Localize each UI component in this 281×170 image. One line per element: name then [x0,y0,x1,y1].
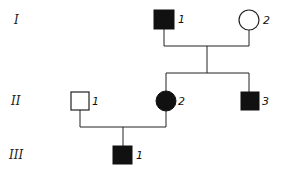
sibship-line-gen2 [166,73,249,92]
generation-label-2: II [10,94,21,108]
marriage-line-gen1 [164,29,249,46]
marriage-line-gen2 [80,110,166,127]
individual-I-2-label: 2 [263,14,270,27]
individual-II-2-affected-female [156,91,176,111]
individual-I-1-label: 1 [178,13,185,26]
generation-label-3: III [8,148,23,162]
individual-II-2-label: 2 [178,95,185,108]
individual-II-1-label: 1 [92,95,99,108]
individual-III-1-label: 1 [136,149,143,162]
individual-I-2-unaffected-female [239,10,259,30]
individual-I-1-affected-male [154,10,174,29]
individual-II-3-label: 3 [262,95,269,108]
individual-II-3-affected-male [241,92,259,110]
generation-label-1: I [13,13,19,27]
pedigree-chart: I II III 1 2 1 2 3 1 [0,0,281,170]
individual-III-1-affected-male [113,146,132,164]
individual-II-1-unaffected-male [71,92,89,110]
